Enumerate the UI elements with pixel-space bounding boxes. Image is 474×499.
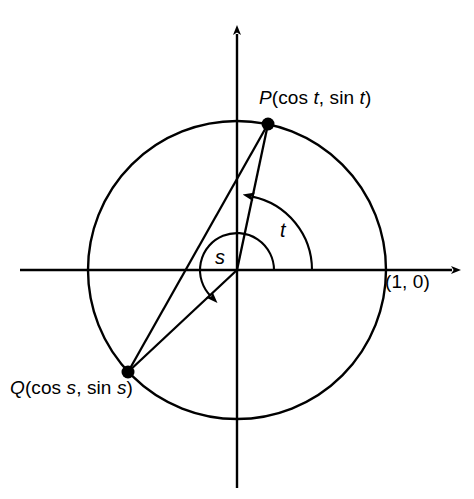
point-one-zero-label: (1, 0) xyxy=(385,272,430,291)
point-q-name: Q xyxy=(10,377,25,398)
point-p-name: P xyxy=(259,87,272,108)
point-p-marker xyxy=(262,118,275,131)
point-p-prefix: (cos xyxy=(272,87,314,108)
point-q-prefix: (cos xyxy=(25,377,67,398)
point-q-label: Q(cos s, sin s) xyxy=(10,378,133,397)
point-q-suffix: ) xyxy=(127,377,133,398)
angle-s-label: s xyxy=(215,247,225,267)
point-p-suffix: ) xyxy=(365,87,371,108)
chord-pq-segment xyxy=(128,124,268,372)
point-q-var2: s xyxy=(117,377,127,398)
figure-canvas: P(cos t, sin t) Q(cos s, sin s) (1, 0) t… xyxy=(0,0,474,499)
point-q-middle: , sin xyxy=(76,377,117,398)
point-p-label: P(cos t, sin t) xyxy=(259,88,371,107)
radius-oq-segment xyxy=(128,270,237,372)
point-p-middle: , sin xyxy=(319,87,360,108)
angle-t-label: t xyxy=(280,220,286,240)
point-q-var1: s xyxy=(67,377,77,398)
unit-circle-diagram xyxy=(0,0,474,499)
